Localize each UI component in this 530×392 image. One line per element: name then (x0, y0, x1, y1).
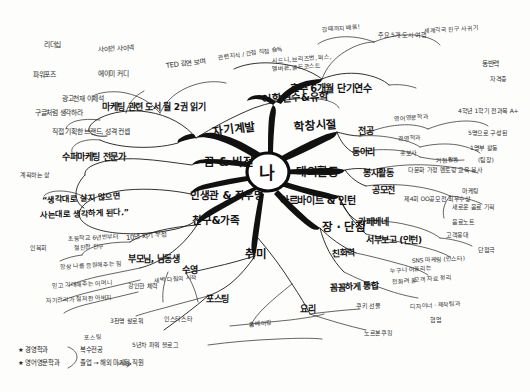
branch-label-life-philosophy[interactable]: 인생관 & 좌우명 (190, 190, 264, 201)
twig-major (337, 132, 360, 136)
twig-power-blog (208, 338, 322, 345)
leaf-blog-posting-bottom[interactable]: 포스팅 (84, 334, 101, 341)
leaf-grades[interactable]: 4학년 1학기 전과목 A+ (458, 108, 518, 114)
footnote-result: 졸업 → 해외 마케팅 직원 (80, 360, 143, 366)
leaf-followers[interactable]: 3천명 팔로워 (110, 318, 144, 324)
twig-inbokhoe (60, 255, 82, 261)
leaf-power-pose[interactable]: 파워포즈 (33, 72, 56, 79)
leaf-nordic-cooking[interactable]: 노르본쿠킹 (364, 330, 393, 336)
leaf-pr-team[interactable]: 홍보사 (400, 150, 417, 156)
branch-label-friends-family[interactable]: 친구&가족 (192, 215, 240, 226)
leaf-new-drink-plan[interactable]: 새로운 음료 기획 (452, 204, 495, 210)
twig-posting (208, 256, 255, 296)
leaf-drink-notes[interactable]: 음료노트 (452, 219, 475, 225)
twig-followers (164, 296, 208, 330)
leaf-think-like-google[interactable]: 구글처럼 생각하라 (35, 110, 82, 117)
leaf-five-cities[interactable]: 주요 5개 도시 여행 (378, 32, 426, 38)
mindmap-canvas: 나 자기계발 꿈 & 비전 인생관 & 좌우명 친구&가족 취미 장 · 단점 … (0, 0, 530, 392)
leaf-weakness-point[interactable]: 단점극 (478, 247, 495, 253)
footnote-double-major: 복수전공 (80, 347, 103, 353)
leaf-super-marketer[interactable]: 수퍼마케팅 전문가 (62, 153, 126, 162)
leaf-cookie-gift[interactable]: 쿠키 선물 (356, 303, 380, 309)
twig-certificate (389, 85, 416, 88)
footnote-star2: ★ 영어영문학과 (18, 360, 59, 366)
leaf-marketing-tag[interactable]: 마케팅 (462, 188, 479, 194)
leaf-brand-concept[interactable]: 직접 기획한 브랜드, 성격 컨셉 (52, 129, 130, 136)
branch-stroke-school-days (278, 132, 337, 163)
leaf-team-leader[interactable]: (팀장) (478, 157, 493, 163)
leaf-cooking[interactable]: 요리 (300, 305, 315, 314)
leaf-volunteer[interactable]: 봉사활동 (363, 169, 393, 178)
leaf-parents-brother[interactable]: 부모님, 남동생 (128, 255, 179, 264)
center-label[interactable]: 나 (259, 165, 276, 182)
leaf-multicultural-mentor[interactable]: 다문화 가정 멘토링 교육 봉사 (408, 167, 483, 173)
leaf-team-work[interactable]: 1명부 활동 (470, 145, 498, 151)
leaf-inbokhoe[interactable]: 인복회 (30, 245, 47, 251)
twig-grades (428, 121, 488, 129)
leaf-leadership[interactable]: 리더십 (44, 42, 61, 49)
twig-nordic-cooking (310, 314, 366, 330)
leaf-australia-6month[interactable]: 호주 6개월 단기연수 (290, 84, 372, 94)
branch-label-parttime-intern[interactable]: 아르바이트 & 인턴 (280, 196, 356, 206)
twig-weakness-point (440, 238, 472, 246)
twig-ad-genius (100, 140, 178, 147)
leaf-certificate[interactable]: 자격증 (490, 76, 507, 82)
twig-cookie-gift (310, 309, 360, 314)
leaf-marketing-books[interactable]: 마케팅 관련 도서 월 2권 읽기 (102, 103, 205, 112)
leaf-major[interactable]: 전공 (358, 127, 373, 136)
leaf-club[interactable]: 동아리 (352, 148, 375, 157)
leaf-power-blog[interactable]: 5년차 파워 블로그 (132, 342, 179, 348)
leaf-customer-service[interactable]: 고객응대 (446, 232, 469, 238)
footnote-brace (68, 347, 77, 368)
leaf-first-prize[interactable]: 제4회 OO공모전 최우수상 (404, 196, 471, 202)
leaf-cafebene[interactable]: 카페베네 (358, 218, 388, 227)
leaf-insta-star[interactable]: 인스타스타 (164, 316, 193, 322)
twig-insta-star (230, 314, 324, 326)
footnote-star1: ★ 경영학과 (18, 347, 48, 353)
leaf-friendliness[interactable]: 친화력 (332, 248, 355, 259)
leaf-collaboration[interactable]: 협업 (430, 317, 441, 323)
leaf-competition[interactable]: 공모전 (372, 186, 395, 195)
leaf-seobu-intern[interactable]: 서부보고 (인턴) (366, 236, 422, 245)
leaf-amy-cuddy[interactable]: 에이미 커디 (98, 71, 128, 78)
twig-think-like-google (72, 140, 100, 152)
branch-label-dream-vision[interactable]: 꿈 & 비전 (204, 157, 253, 169)
branch-label-school-days[interactable]: 학창시절 (294, 119, 338, 133)
branch-stroke-study-abroad (268, 105, 276, 156)
twig-home-baking (252, 284, 292, 323)
leaf-posting[interactable]: 포스팅 (206, 295, 229, 304)
leaf-mobility[interactable]: 동반력 (482, 61, 499, 68)
leaf-planned-life[interactable]: 계획하는 삶 (20, 172, 50, 178)
leaf-five-member[interactable]: 5명으로 구성된 (468, 130, 507, 136)
branch-label-hobby[interactable]: 취미 (245, 249, 266, 261)
leaf-ad-genius[interactable]: 광고천재 이제석 (62, 96, 104, 103)
branch-label-external-activity[interactable]: 대외활동 (296, 167, 339, 179)
